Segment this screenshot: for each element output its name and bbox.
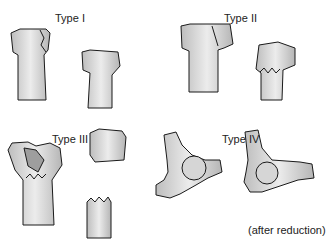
type1-displaced-bone	[82, 50, 120, 108]
type2-displaced-bone	[256, 42, 295, 100]
type2-intact-bone	[181, 24, 233, 92]
type4-label: Type IV	[222, 133, 259, 145]
fracture-illustrations	[0, 0, 330, 240]
type4-dislocated-elbow	[156, 132, 222, 198]
type2-label: Type II	[224, 12, 257, 24]
type3-separated-bone	[87, 129, 126, 238]
type1-label: Type I	[55, 12, 85, 24]
type3-comminuted-bone	[8, 142, 62, 225]
type4-caption: (after reduction)	[248, 224, 326, 236]
type3-label: Type III	[52, 133, 88, 145]
type1-intact-bone	[11, 29, 50, 100]
